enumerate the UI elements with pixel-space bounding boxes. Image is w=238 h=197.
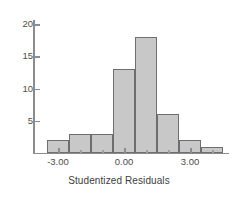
y-tick-mark <box>34 89 40 91</box>
y-tick-label: 20 <box>22 19 33 29</box>
x-tick-mark-minor <box>80 150 82 153</box>
y-tick-mark <box>34 56 40 58</box>
histogram-bar <box>157 114 179 153</box>
y-axis-line <box>33 20 35 154</box>
y-tick-mark <box>34 121 40 123</box>
x-tick-mark-minor <box>102 150 104 153</box>
x-tick-label: 0.00 <box>115 157 134 167</box>
plot-area: 5101520 -3.000.003.00 <box>0 0 238 197</box>
x-tick-mark <box>190 148 192 153</box>
x-tick-mark-minor <box>168 150 170 153</box>
y-tick-label: 15 <box>22 52 33 62</box>
x-tick-mark <box>124 148 126 153</box>
x-tick-mark-minor <box>146 150 148 153</box>
histogram-bar <box>135 37 157 153</box>
y-tick-label: 10 <box>22 84 33 94</box>
x-tick-mark-minor <box>212 150 214 153</box>
histogram-figure: 5101520 -3.000.003.00 Studentized Residu… <box>0 0 238 197</box>
x-tick-mark <box>58 148 60 153</box>
histogram-bar <box>113 69 135 153</box>
y-tick-mark <box>34 24 40 26</box>
x-tick-label: 3.00 <box>181 157 200 167</box>
x-tick-label: -3.00 <box>47 157 69 167</box>
x-axis-title: Studentized Residuals <box>0 175 238 186</box>
y-tick-label: 5 <box>28 116 33 126</box>
